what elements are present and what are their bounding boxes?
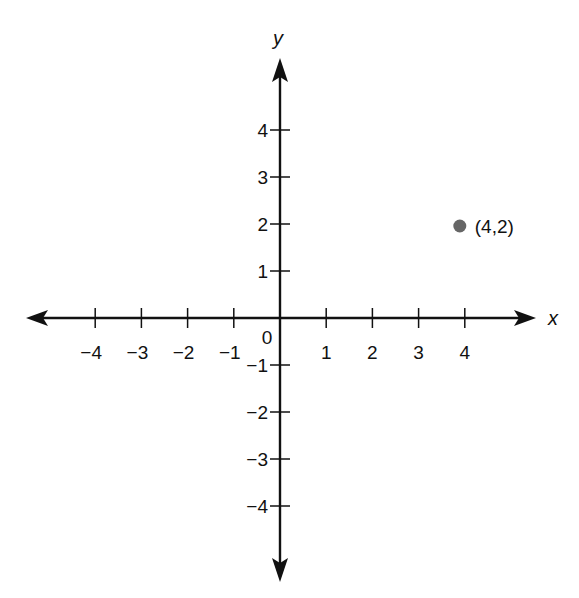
y-tick-label: 4 (257, 120, 268, 141)
y-tick-label: 3 (257, 167, 268, 188)
y-tick-label: −1 (246, 355, 268, 376)
x-tick-label: −1 (219, 342, 241, 363)
y-axis-label: y (271, 27, 284, 49)
y-tick-label: −4 (246, 496, 268, 517)
data-point (453, 220, 466, 233)
x-tick-label: 1 (321, 342, 332, 363)
x-tick-label: 4 (460, 342, 471, 363)
y-tick-label: 1 (257, 261, 268, 282)
coordinate-plane: xy 0−4−3−2−11234−4−3−2−11234 (4,2) (0, 0, 579, 598)
x-axis-label: x (547, 307, 559, 329)
x-tick-label: −3 (127, 342, 149, 363)
y-tick-label: −3 (246, 449, 268, 470)
data-points: (4,2) (453, 216, 514, 237)
x-tick-label: −4 (80, 342, 102, 363)
axes: xy (26, 27, 559, 582)
origin-label: 0 (262, 327, 273, 348)
y-tick-label: −2 (246, 402, 268, 423)
data-point-label: (4,2) (475, 216, 514, 237)
x-tick-label: 3 (413, 342, 424, 363)
x-tick-label: 2 (367, 342, 378, 363)
y-tick-label: 2 (257, 214, 268, 235)
x-tick-label: −2 (173, 342, 195, 363)
